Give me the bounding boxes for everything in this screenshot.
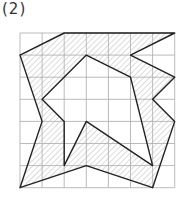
grid-figure xyxy=(0,0,183,206)
hatched-region xyxy=(20,33,175,188)
